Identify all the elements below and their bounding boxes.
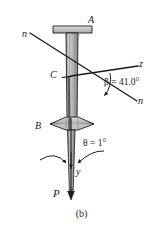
annotation-beta-angle: β = 41.0° (104, 78, 139, 88)
annotation-theta-angle: θ = 1° (83, 139, 106, 149)
label-axis-y: y (76, 167, 80, 177)
axis-n-n-line (30, 33, 137, 101)
label-point-b: B (35, 121, 41, 131)
bottom-flange (50, 117, 94, 130)
label-axis-z: z (139, 59, 143, 69)
label-axis-n-lower: n (138, 96, 143, 106)
theta-arc-left (40, 156, 66, 163)
label-axis-n-upper: n (22, 29, 27, 39)
axis-z-line (71, 66, 138, 76)
figure-caption: (b) (0, 208, 163, 219)
load-p-arrowhead (68, 191, 75, 200)
theta-arc-right (78, 151, 104, 163)
label-load-p: P (53, 188, 60, 199)
label-centroid-c: C (50, 70, 57, 80)
label-point-a: A (88, 15, 94, 25)
